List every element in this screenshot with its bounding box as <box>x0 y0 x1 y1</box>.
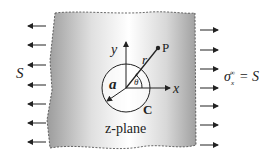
theta-label: θ <box>134 78 138 87</box>
right-load-arrows <box>200 30 218 145</box>
x-axis-label: x <box>173 82 179 96</box>
left-load-arrows <box>28 26 46 142</box>
r-label: r <box>142 53 147 66</box>
right-load-label: σx∞= S <box>224 70 259 84</box>
plane-label: z-plane <box>105 122 146 136</box>
point-label: P <box>162 41 169 54</box>
radius-label: a <box>109 77 117 92</box>
contour-label: C <box>143 103 152 116</box>
point-p <box>156 46 160 50</box>
y-axis-label: y <box>111 43 117 57</box>
left-load-label: S <box>16 66 24 81</box>
